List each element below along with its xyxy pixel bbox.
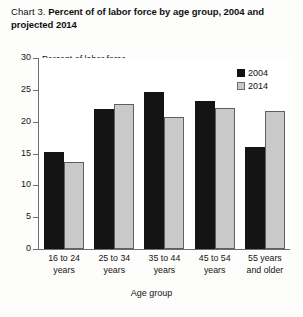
y-axis-tick-label: 15 [3, 148, 31, 158]
x-axis-line [38, 249, 290, 250]
x-axis-tick-label: 45 to 54years [190, 253, 240, 276]
y-axis-tick [33, 249, 38, 250]
y-axis-tick-label: 0 [3, 243, 31, 253]
y-axis-tick-label: 10 [3, 179, 31, 189]
y-axis-tick [33, 154, 38, 155]
y-axis-tick-label: 30 [3, 52, 31, 62]
x-axis-tick-label-line: 35 to 44 [139, 253, 189, 265]
x-axis-tick-label-line: and older [240, 265, 290, 277]
y-axis-tick-label: 20 [3, 116, 31, 126]
bar-2004 [44, 152, 64, 249]
x-axis-tick-label-line: years [89, 265, 139, 277]
chart-title-line1: Percent of of labor force by age group, … [48, 6, 244, 17]
x-axis-tick-label-line: 55 years [240, 253, 290, 265]
bar-2014 [215, 108, 235, 249]
bar-2014 [64, 162, 84, 249]
bar-2014 [164, 117, 184, 249]
bar-2004 [195, 101, 215, 249]
bar-group [39, 58, 89, 249]
x-axis-tick-label: 25 to 34years [89, 253, 139, 276]
bar-2014 [114, 104, 134, 249]
bar-group [89, 58, 139, 249]
x-axis-title: Age group [0, 288, 303, 298]
bar-group [240, 58, 290, 249]
x-axis-tick-label-line: 16 to 24 [39, 253, 89, 265]
bar-2004 [245, 147, 265, 250]
y-axis-tick-label: 5 [3, 211, 31, 221]
x-axis-tick-label: 16 to 24years [39, 253, 89, 276]
bar-2004 [94, 109, 114, 249]
bar-group [139, 58, 189, 249]
y-axis: 302520151050 [0, 0, 31, 317]
y-axis-tick-label: 25 [3, 84, 31, 94]
bar-group [190, 58, 240, 249]
y-axis-tick [33, 185, 38, 186]
x-axis-tick-label-line: years [39, 265, 89, 277]
x-axis-tick-label: 55 yearsand older [240, 253, 290, 276]
x-axis-tick-label: 35 to 44years [139, 253, 189, 276]
x-axis-tick-labels: 16 to 24years25 to 34years35 to 44years4… [39, 253, 290, 285]
chart-figure: Chart 3. Percent of of labor force by ag… [0, 0, 303, 317]
x-axis-tick-label-line: 25 to 34 [89, 253, 139, 265]
bar-2014 [265, 111, 285, 249]
y-axis-tick [33, 90, 38, 91]
bar-2004 [144, 92, 164, 249]
x-axis-tick-label-line: years [139, 265, 189, 277]
x-axis-tick-label-line: years [190, 265, 240, 277]
bars-container [39, 58, 290, 249]
chart-title: Chart 3. Percent of of labor force by ag… [11, 6, 296, 31]
y-axis-tick [33, 217, 38, 218]
y-axis-tick [33, 122, 38, 123]
y-axis-tick [33, 58, 38, 59]
x-axis-tick-label-line: 45 to 54 [190, 253, 240, 265]
